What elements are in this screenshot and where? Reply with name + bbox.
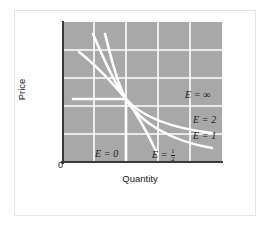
elasticity-chart xyxy=(0,0,270,228)
fraction-one-half: 12 xyxy=(171,148,176,162)
annotation-e-half-prefix: E = xyxy=(152,149,170,160)
annotation-e-half: E = 12 xyxy=(152,148,175,162)
annotation-e-0: E = 0 xyxy=(95,148,118,159)
annotation-e-1: E = 1 xyxy=(193,130,216,141)
figure-container: Price Quantity 0 E = ∞ E = 2 E = 1 E = 0… xyxy=(0,0,270,228)
origin-label: 0 xyxy=(58,160,63,170)
annotation-e-infinity: E = ∞ xyxy=(185,89,211,100)
annotation-e-2: E = 2 xyxy=(193,114,216,125)
fraction-denominator: 2 xyxy=(171,156,176,163)
x-axis-label: Quantity xyxy=(95,173,185,184)
y-axis-label: Price xyxy=(16,60,27,120)
